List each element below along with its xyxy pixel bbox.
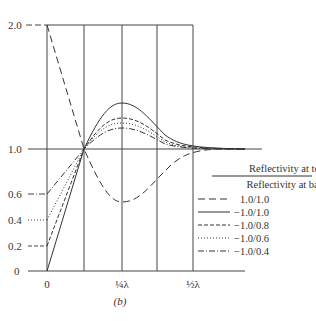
legend-label: −1.0/1.0 <box>234 207 269 218</box>
series-neg1.0-0.8 <box>47 118 245 246</box>
svg-text:0: 0 <box>14 265 20 277</box>
y-tick-labels: 2.0 1.0 0.6 0.4 0.2 0 <box>8 19 22 277</box>
x-tick-labels: 0 ¼λ ½λ (b) <box>44 278 200 308</box>
panel-label: (b) <box>114 295 127 308</box>
legend: Reflectivity at top Reflectivity at base… <box>198 163 316 257</box>
svg-text:0: 0 <box>44 278 50 290</box>
series-neg1.0-1.0 <box>47 103 245 271</box>
svg-text:2.0: 2.0 <box>8 19 22 31</box>
series-neg1.0-0.4 <box>47 128 245 194</box>
legend-label: −1.0/0.4 <box>234 246 270 257</box>
series-1.0-1.0 <box>47 25 245 202</box>
chart: 2.0 1.0 0.6 0.4 0.2 0 0 ¼λ ½λ (b) Reflec… <box>0 0 316 321</box>
legend-title-top: Reflectivity at top <box>249 163 316 174</box>
svg-text:½λ: ½λ <box>186 278 200 290</box>
svg-text:0.6: 0.6 <box>8 188 22 200</box>
svg-text:0.2: 0.2 <box>8 240 22 252</box>
legend-label: 1.0/1.0 <box>240 194 269 205</box>
svg-text:0.4: 0.4 <box>8 214 22 226</box>
legend-title-bottom: Reflectivity at base <box>246 179 316 190</box>
curves <box>47 25 245 271</box>
legend-label: −1.0/0.8 <box>234 220 269 231</box>
svg-text:1.0: 1.0 <box>8 143 22 155</box>
legend-label: −1.0/0.6 <box>234 233 269 244</box>
y-leaders <box>26 25 47 246</box>
svg-text:¼λ: ¼λ <box>115 278 129 290</box>
